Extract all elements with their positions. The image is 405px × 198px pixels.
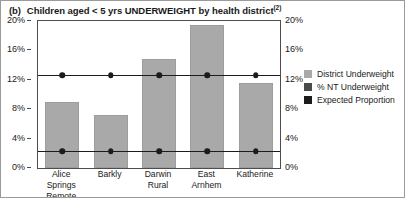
chart-title-row: (b) Children aged < 5 yrs UNDERWEIGHT by… xyxy=(9,5,281,16)
y-tick-label: 8% xyxy=(285,104,298,113)
x-axis-label-line: Alice Springs xyxy=(37,169,85,191)
y-tick-label: 12% xyxy=(285,74,303,83)
legend-item-label: District Underweight xyxy=(317,69,394,79)
y-tick-label: 4% xyxy=(12,133,25,142)
bar[interactable] xyxy=(94,115,128,168)
y-tick-label: 12% xyxy=(7,74,25,83)
chart-title: Children aged < 5 yrs UNDERWEIGHT by hea… xyxy=(27,5,281,16)
bar-series xyxy=(38,21,280,168)
legend-swatch-district xyxy=(304,70,312,78)
x-axis-label-line: Rural xyxy=(134,180,182,191)
y-tick-label: 0% xyxy=(12,163,25,172)
legend-swatch-nt xyxy=(304,83,312,91)
chart-figure: (b) Children aged < 5 yrs UNDERWEIGHT by… xyxy=(0,0,405,198)
x-axis-label: DarwinRural xyxy=(134,169,182,198)
x-axis-label-line: Katherine xyxy=(231,169,279,180)
y-tick-label: 16% xyxy=(7,45,25,54)
plot-area xyxy=(37,20,281,169)
y-tick-label: 20% xyxy=(285,16,303,25)
x-axis-label-line: Remote xyxy=(37,191,85,198)
y-tick-mark xyxy=(27,20,31,21)
legend-item[interactable]: Expected Proportion xyxy=(304,95,395,105)
x-axis-label: EastArnhem xyxy=(182,169,230,198)
bar[interactable] xyxy=(190,25,224,168)
legend-swatch-expected xyxy=(304,96,312,104)
chart-legend: District Underweight% NT UnderweightExpe… xyxy=(304,69,395,108)
x-axis-label: Barkly xyxy=(85,169,133,198)
legend-item-label: % NT Underweight xyxy=(317,82,389,92)
y-tick-mark xyxy=(27,138,31,139)
y-tick-label: 16% xyxy=(285,45,303,54)
x-axis-labels: Alice SpringsRemoteBarklyDarwinRuralEast… xyxy=(37,169,279,198)
x-axis-label: Katherine xyxy=(231,169,279,198)
x-axis-label-line: East xyxy=(182,169,230,180)
y-tick-mark xyxy=(27,79,31,80)
y-tick-label: 8% xyxy=(12,104,25,113)
y-tick-mark xyxy=(27,108,31,109)
y-tick-label: 4% xyxy=(285,133,298,142)
legend-item[interactable]: % NT Underweight xyxy=(304,82,395,92)
chart-title-superscript: (2) xyxy=(274,4,282,11)
y-tick-mark xyxy=(27,167,31,168)
x-axis-label-line: Darwin xyxy=(134,169,182,180)
y-tick-mark xyxy=(27,49,31,50)
legend-item-label: Expected Proportion xyxy=(317,95,395,105)
bar[interactable] xyxy=(45,102,79,168)
y-tick-label: 20% xyxy=(7,16,25,25)
legend-item[interactable]: District Underweight xyxy=(304,69,395,79)
y-tick-label: 0% xyxy=(285,163,298,172)
bar[interactable] xyxy=(142,59,176,168)
chart-title-text: Children aged < 5 yrs UNDERWEIGHT by hea… xyxy=(27,5,274,16)
x-axis-label-line: Barkly xyxy=(85,169,133,180)
y-axis-left: 0%4%8%12%16%20% xyxy=(1,20,31,167)
bar[interactable] xyxy=(239,83,273,168)
x-axis-label: Alice SpringsRemote xyxy=(37,169,85,198)
x-axis-label-line: Arnhem xyxy=(182,180,230,191)
